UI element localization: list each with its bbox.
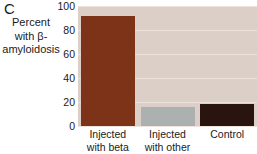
gridline-0 — [78, 126, 257, 127]
y-tick-label-60: 60 — [49, 49, 75, 60]
y-tick-label-40: 40 — [49, 73, 75, 84]
y-tick-label-80: 80 — [49, 25, 75, 36]
bar — [81, 16, 135, 126]
y-tick-label-0: 0 — [49, 121, 75, 132]
y-tick-label-100: 100 — [49, 1, 75, 12]
bar — [141, 107, 195, 126]
bar — [200, 104, 254, 126]
y-tick-label-20: 20 — [49, 97, 75, 108]
gridline-100 — [78, 6, 257, 7]
panel-letter: C — [4, 1, 15, 16]
figure-panel: C Percent with β- amyloidosis 1008060402… — [0, 0, 257, 154]
x-tick-label-line-1: Control — [192, 128, 257, 141]
x-tick-label: Control — [192, 128, 257, 141]
x-tick-label-line-2: with other — [133, 141, 203, 154]
plot-area — [78, 6, 257, 126]
